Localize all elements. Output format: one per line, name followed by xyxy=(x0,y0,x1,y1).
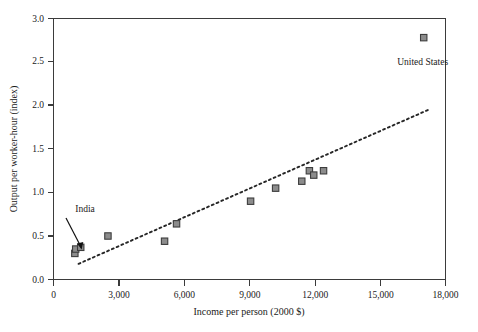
y-axis-tick-labels: 0.0 0.5 1.0 1.5 2.0 2.5 3.0 xyxy=(32,14,44,285)
x-tick-label-4: 12,000 xyxy=(302,290,328,300)
y-tick-label-2: 1.0 xyxy=(32,187,44,197)
y-tick-label-5: 2.5 xyxy=(32,56,44,66)
x-axis-title: Income per person (2000 $) xyxy=(193,306,304,318)
y-axis-ticks xyxy=(48,19,54,280)
y-tick-label-3: 1.5 xyxy=(32,144,44,154)
data-point xyxy=(173,221,179,227)
x-tick-label-3: 9,000 xyxy=(239,290,261,300)
x-tick-label-5: 15,000 xyxy=(368,290,394,300)
data-point-united-states xyxy=(421,34,427,40)
x-axis-ticks xyxy=(54,280,446,286)
data-points-layer xyxy=(72,34,427,256)
india-annotation-label: India xyxy=(75,204,95,214)
y-tick-label-6: 3.0 xyxy=(32,14,44,24)
y-tick-label-4: 2.0 xyxy=(32,100,44,110)
data-point xyxy=(272,185,278,191)
plot-frame xyxy=(53,18,446,280)
data-point xyxy=(105,233,111,239)
data-point xyxy=(320,168,326,174)
x-axis-tick-labels: 0 3,000 6,000 9,000 12,000 15,000 18,000 xyxy=(51,290,459,300)
trend-line xyxy=(79,109,431,264)
x-tick-label-1: 3,000 xyxy=(108,290,130,300)
y-tick-label-0: 0.0 xyxy=(32,275,44,285)
data-point xyxy=(299,178,305,184)
x-tick-label-6: 18,000 xyxy=(432,290,458,300)
data-point xyxy=(247,198,253,204)
y-tick-label-1: 0.5 xyxy=(32,231,44,241)
india-annotation: India xyxy=(66,204,96,250)
x-tick-label-0: 0 xyxy=(51,290,56,300)
india-annotation-arrow-shaft xyxy=(66,218,80,245)
data-point xyxy=(161,238,167,244)
x-tick-label-2: 6,000 xyxy=(174,290,196,300)
data-point xyxy=(311,172,317,178)
chart-canvas: 0.0 0.5 1.0 1.5 2.0 2.5 3.0 0 3,000 6,00… xyxy=(0,0,478,332)
scatter-chart-figure: 0.0 0.5 1.0 1.5 2.0 2.5 3.0 0 3,000 6,00… xyxy=(0,0,478,332)
united-states-annotation-label: United States xyxy=(397,57,448,67)
y-axis-title: Output per worker-hour (index) xyxy=(8,86,20,213)
